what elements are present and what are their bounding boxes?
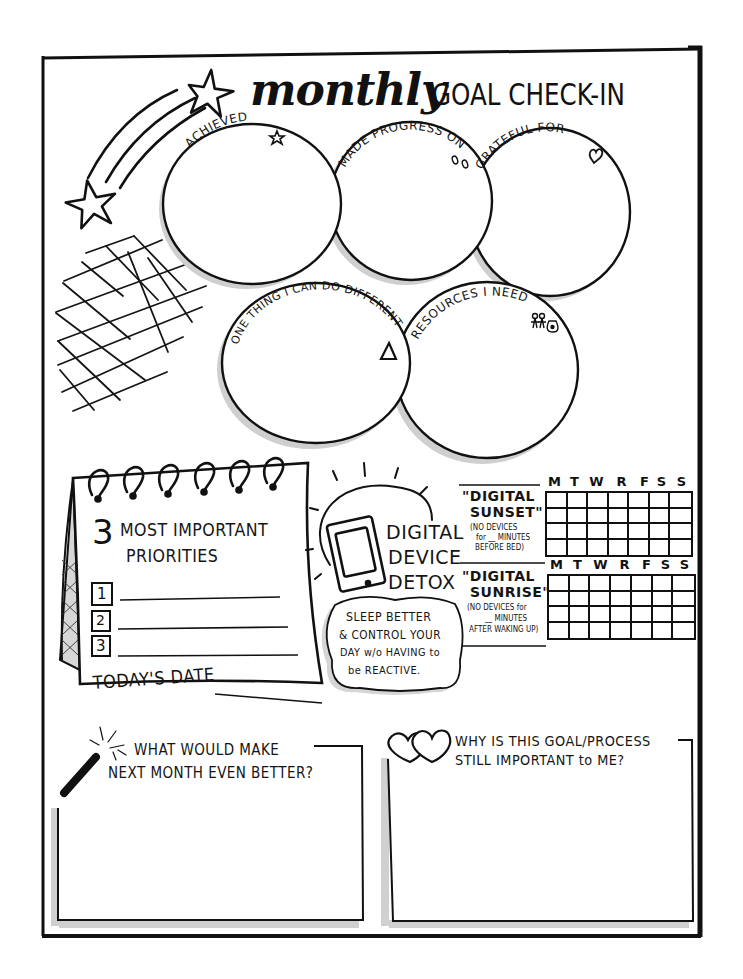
- tracker-checkbox[interactable]: [650, 540, 671, 556]
- tracker-checkbox[interactable]: [611, 576, 632, 592]
- priority-input-1[interactable]: [120, 582, 282, 598]
- why-answer-area[interactable]: [396, 775, 690, 919]
- tracker-checkbox[interactable]: [549, 576, 570, 592]
- tracker-checkbox[interactable]: [549, 623, 570, 639]
- tracker-checkbox[interactable]: [547, 493, 568, 509]
- tracker-checkbox[interactable]: [670, 509, 691, 525]
- priorities-title-line2: PRIORITIES: [126, 545, 218, 566]
- tracker-checkbox[interactable]: [670, 524, 691, 540]
- tracker-checkbox[interactable]: [629, 509, 650, 525]
- resources-writing-area[interactable]: [412, 345, 562, 450]
- tracker-checkbox[interactable]: [570, 592, 591, 608]
- tracker-checkbox[interactable]: [590, 592, 611, 608]
- tracker-checkbox[interactable]: [670, 493, 691, 509]
- made-progress-writing-area[interactable]: [345, 170, 475, 270]
- tracker-checkbox[interactable]: [673, 592, 694, 608]
- tracker-checkbox[interactable]: [547, 509, 568, 525]
- tracker-checkbox[interactable]: [609, 493, 630, 509]
- tracker-checkbox[interactable]: [570, 576, 591, 592]
- sunset-day-tue: T: [564, 474, 585, 489]
- priority-number-3: 3: [96, 637, 106, 655]
- sunrise-note-line3: AFTER WAKING UP): [469, 624, 538, 634]
- tracker-checkbox[interactable]: [588, 509, 609, 525]
- tracker-checkbox[interactable]: [653, 576, 674, 592]
- tracker-checkbox[interactable]: [568, 540, 589, 556]
- tracker-checkbox[interactable]: [568, 524, 589, 540]
- sunrise-note-line2: __ MINUTES: [485, 613, 527, 623]
- sunset-tracker-grid: [545, 491, 693, 557]
- tracker-checkbox[interactable]: [609, 509, 630, 525]
- detox-title-line1: DIGITAL: [386, 521, 464, 543]
- tracker-checkbox[interactable]: [632, 607, 653, 623]
- better-prompt-line2: NEXT MONTH EVEN BETTER?: [108, 764, 313, 782]
- tracker-checkbox[interactable]: [588, 540, 609, 556]
- tracker-checkbox[interactable]: [673, 623, 694, 639]
- tracker-checkbox[interactable]: [590, 607, 611, 623]
- grateful-writing-area[interactable]: [485, 175, 615, 285]
- sunset-title-line1: "DIGITAL: [462, 488, 535, 504]
- sunrise-day-tue: T: [567, 557, 588, 572]
- tracker-checkbox[interactable]: [549, 592, 570, 608]
- two-hearts-icon: [388, 731, 450, 763]
- detox-cloud-line3: DAY w/o HAVING to: [340, 646, 440, 659]
- tracker-checkbox[interactable]: [650, 509, 671, 525]
- tracker-checkbox[interactable]: [547, 540, 568, 556]
- detox-title-line2: DEVICE: [388, 546, 462, 568]
- detox-title-line3: DETOX: [388, 571, 456, 593]
- achieved-writing-area[interactable]: [178, 160, 326, 276]
- tracker-checkbox[interactable]: [568, 509, 589, 525]
- sunset-day-sat: S: [651, 474, 672, 489]
- tracker-checkbox[interactable]: [650, 524, 671, 540]
- sunset-day-sun: S: [671, 474, 692, 489]
- sunrise-day-thu: R: [614, 557, 635, 572]
- tracker-checkbox[interactable]: [609, 524, 630, 540]
- tracker-checkbox[interactable]: [670, 540, 691, 556]
- tracker-checkbox[interactable]: [653, 607, 674, 623]
- sunset-day-thu: R: [611, 474, 632, 489]
- tracker-checkbox[interactable]: [629, 493, 650, 509]
- why-prompt-line2: STILL IMPORTANT to ME?: [455, 752, 625, 768]
- tracker-checkbox[interactable]: [570, 623, 591, 639]
- sunrise-day-sat: S: [655, 557, 676, 572]
- tracker-checkbox[interactable]: [609, 540, 630, 556]
- priority-number-1: 1: [97, 585, 107, 603]
- priorities-number: 3: [92, 512, 114, 552]
- tracker-checkbox[interactable]: [653, 592, 674, 608]
- sunrise-note-line1: (NO DEVICES for: [467, 602, 527, 612]
- tracker-checkbox[interactable]: [547, 524, 568, 540]
- tracker-checkbox[interactable]: [632, 623, 653, 639]
- sunset-day-mon: M: [544, 474, 565, 489]
- tracker-checkbox[interactable]: [650, 493, 671, 509]
- tracker-checkbox[interactable]: [673, 576, 694, 592]
- tracker-checkbox[interactable]: [611, 592, 632, 608]
- tracker-checkbox[interactable]: [632, 576, 653, 592]
- tracker-checkbox[interactable]: [629, 540, 650, 556]
- sunrise-title-line2: SUNRISE": [470, 584, 550, 600]
- tracker-checkbox[interactable]: [673, 607, 694, 623]
- tracker-checkbox[interactable]: [549, 607, 570, 623]
- magic-wand-icon: [64, 727, 126, 793]
- tracker-checkbox[interactable]: [632, 592, 653, 608]
- tracker-checkbox[interactable]: [570, 607, 591, 623]
- priority-input-2[interactable]: [118, 611, 288, 627]
- better-prompt-line1: WHAT WOULD MAKE: [134, 741, 279, 759]
- detox-cloud-line4: be REACTIVE.: [348, 664, 421, 677]
- tracker-checkbox[interactable]: [611, 623, 632, 639]
- sunrise-day-sun: S: [674, 557, 695, 572]
- why-prompt-line1: WHY IS THIS GOAL/PROCESS: [455, 733, 651, 749]
- tracker-checkbox[interactable]: [568, 493, 589, 509]
- sunrise-day-wed: W: [590, 557, 611, 572]
- title-goal-check-in: GOAL CHECK-IN: [432, 77, 625, 112]
- sunrise-day-mon: M: [546, 557, 567, 572]
- tracker-checkbox[interactable]: [590, 623, 611, 639]
- one-thing-writing-area[interactable]: [238, 362, 388, 438]
- tracker-checkbox[interactable]: [611, 607, 632, 623]
- priority-input-3[interactable]: [118, 638, 298, 654]
- tracker-checkbox[interactable]: [653, 623, 674, 639]
- tracker-checkbox[interactable]: [590, 576, 611, 592]
- tracker-checkbox[interactable]: [588, 493, 609, 509]
- tracker-checkbox[interactable]: [629, 524, 650, 540]
- todays-date-input[interactable]: [215, 676, 322, 694]
- tracker-checkbox[interactable]: [588, 524, 609, 540]
- better-answer-area[interactable]: [60, 800, 360, 918]
